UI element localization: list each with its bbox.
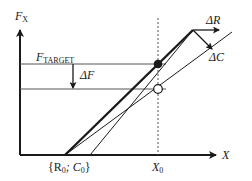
origin-close: } — [85, 160, 91, 174]
x-axis-text: X — [222, 148, 229, 162]
target-curve-line — [65, 30, 193, 155]
delta-c-arrow — [193, 30, 212, 49]
origin-r: {R — [48, 160, 62, 174]
target-point — [154, 60, 163, 69]
actual-point — [154, 85, 163, 94]
delta-c-text: ΔC — [209, 50, 224, 64]
x-axis-label: X — [222, 149, 229, 161]
delta-f-text: ΔF — [80, 68, 94, 82]
y-axis-label-sub: X — [22, 15, 28, 24]
delta-c-label: ΔC — [209, 51, 224, 63]
target-force-label: FTARGET — [36, 51, 74, 65]
shifted-curve-line — [90, 30, 193, 155]
x0-sub: 0 — [159, 166, 163, 175]
delta-r-text: ΔR — [206, 13, 220, 27]
delta-f-label: ΔF — [80, 69, 94, 81]
y-axis-label: FX — [15, 10, 28, 24]
rotated-curve-line — [65, 32, 232, 155]
delta-r-label: ΔR — [206, 14, 220, 26]
origin-label: {R0; C0} — [48, 161, 91, 175]
x0-label: X0 — [152, 161, 163, 175]
target-label-sub: TARGET — [43, 56, 74, 65]
force-diagram — [0, 0, 252, 181]
origin-c: ; C — [66, 160, 81, 174]
